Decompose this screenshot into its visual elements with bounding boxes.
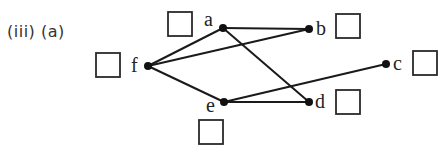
vertex-label-e: e [206, 94, 215, 116]
vertex-label-d: d [315, 90, 325, 112]
answer-box-d[interactable] [336, 90, 360, 114]
edge-a-b [223, 28, 309, 29]
answer-box-e[interactable] [199, 120, 223, 144]
vertex-a [219, 24, 227, 32]
answer-box-b[interactable] [336, 14, 360, 38]
answer-box-c[interactable] [413, 51, 437, 75]
vertex-d [305, 98, 313, 106]
vertex-label-f: f [131, 54, 138, 76]
answer-box-f[interactable] [96, 53, 120, 77]
answer-boxes-group [96, 12, 437, 144]
vertex-c [382, 60, 390, 68]
vertex-label-a: a [204, 8, 213, 30]
vertex-f [144, 62, 152, 70]
vertex-b [305, 25, 313, 33]
vertex-e [220, 98, 228, 106]
answer-box-a[interactable] [168, 12, 192, 36]
vertex-label-c: c [393, 52, 402, 74]
vertex-label-b: b [316, 17, 326, 39]
edge-e-c [224, 64, 386, 102]
graph-diagram: abcdef [0, 0, 444, 158]
